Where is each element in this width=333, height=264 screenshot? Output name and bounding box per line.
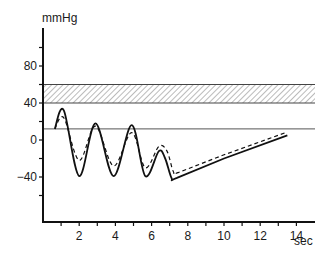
x-tick-label: 4 <box>105 230 125 242</box>
y-tick-label: 0 <box>7 134 37 146</box>
chart-canvas <box>0 0 333 264</box>
dashed-pressure-curve <box>55 117 286 175</box>
x-tick-label: 8 <box>178 230 198 242</box>
y-tick-label: 80 <box>7 60 37 72</box>
series-lines <box>55 109 288 181</box>
x-tick-label: 10 <box>214 230 234 242</box>
x-tick-label: 14 <box>286 230 306 242</box>
x-tick-label: 6 <box>142 230 162 242</box>
solid-pressure-curve <box>55 109 288 181</box>
y-tick-label: −40 <box>7 171 37 183</box>
x-tick-label: 2 <box>69 230 89 242</box>
axes <box>39 28 315 226</box>
x-tick-label: 12 <box>250 230 270 242</box>
normal-range-band <box>43 85 315 104</box>
y-axis-unit-label: mmHg <box>42 12 77 24</box>
y-tick-label: 40 <box>7 97 37 109</box>
